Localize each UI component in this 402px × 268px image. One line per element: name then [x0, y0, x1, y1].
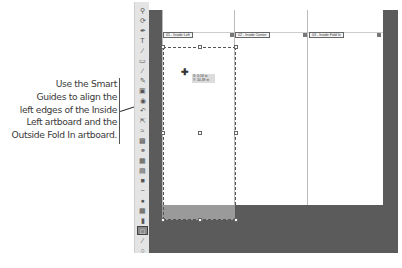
move-cursor-icon: ✚ — [181, 68, 189, 77]
selection-handle-bottom-right[interactable] — [234, 218, 238, 222]
pasteboard-left-edge — [149, 10, 162, 205]
selection-handle-center[interactable] — [198, 131, 202, 135]
tooltip-y: Y: 10.39 in — [193, 78, 214, 82]
pencil-tool-icon[interactable]: ✎ — [137, 76, 148, 85]
artboard-top-edge — [162, 32, 383, 33]
artboard-divider — [307, 10, 308, 205]
artboard-label-inside-center[interactable]: 02 - Inside Center — [235, 32, 270, 38]
perspective-grid-tool-icon[interactable]: ▦ — [137, 156, 148, 165]
tools-panel: ⚲ ⟳ ✒ T ∕ ▭ ∕ ✎ ▣ ◉ ↶ ⇱ ≈ ▩ ⚭ ▦ ▤ ■ − ● … — [134, 2, 149, 253]
warp-tool-icon[interactable]: ≈ — [137, 126, 148, 135]
graph-tool-icon[interactable]: ▮ — [137, 216, 148, 225]
blob-brush-tool-icon[interactable]: ◉ — [137, 96, 148, 105]
selection-handle-bottom-center[interactable] — [198, 218, 202, 222]
selection-handle-top-right[interactable] — [234, 45, 238, 49]
callout-line: Guides to align the — [4, 91, 117, 104]
callout-line: Left artboard and the — [4, 116, 117, 129]
selection-handle-top-center[interactable] — [198, 45, 202, 49]
zoom-tool-icon[interactable]: ⚲ — [137, 6, 148, 15]
line-tool-icon[interactable]: ∕ — [137, 46, 148, 55]
blend-tool-icon[interactable]: ● — [137, 196, 148, 205]
artboard-options-icon[interactable] — [377, 33, 381, 37]
rotate-tool-icon[interactable]: ↶ — [137, 106, 148, 115]
slice-tool-icon[interactable]: ∕ — [137, 236, 148, 245]
mesh-tool-icon[interactable]: ▤ — [137, 166, 148, 175]
pen-tool-icon[interactable]: ✒ — [137, 26, 148, 35]
eraser-tool-icon[interactable]: ▣ — [137, 86, 148, 95]
type-tool-icon[interactable]: T — [137, 36, 148, 45]
selection-handle-bottom-left[interactable] — [161, 218, 165, 222]
selection-handle-middle-right[interactable] — [234, 131, 238, 135]
callout-line: left edges of the Inside — [4, 104, 117, 117]
artboard-options-icon[interactable] — [303, 33, 307, 37]
symbol-sprayer-tool-icon[interactable]: ▦ — [137, 206, 148, 215]
selection-handle-top-left[interactable] — [161, 45, 165, 49]
rectangle-tool-icon[interactable]: ▭ — [137, 56, 148, 65]
hand-tool-icon[interactable]: ○ — [137, 246, 148, 255]
rotate-view-tool-icon[interactable]: ⟳ — [137, 16, 148, 25]
smart-guide-tooltip: X: 0.13 in Y: 10.39 in — [192, 74, 215, 83]
artboard-tool-icon[interactable]: □ — [137, 226, 148, 235]
callout-line: Use the Smart — [4, 78, 117, 91]
selection-handle-middle-left[interactable] — [161, 131, 165, 135]
shape-builder-tool-icon[interactable]: ⚭ — [137, 146, 148, 155]
paintbrush-tool-icon[interactable]: ∕ — [137, 66, 148, 75]
pasteboard-right-edge — [383, 10, 398, 253]
callout-text: Use the Smart Guides to align the left e… — [4, 78, 117, 142]
callout-line: Outside Fold In artboard. — [4, 129, 117, 142]
artboard-label-inside-left[interactable]: 01 - Inside Left — [163, 32, 193, 38]
gradient-tool-icon[interactable]: ■ — [137, 176, 148, 185]
artboard-label-inside-fold-in[interactable]: 03 - Inside Fold In — [309, 32, 344, 38]
scale-tool-icon[interactable]: ⇱ — [137, 116, 148, 125]
eyedropper-tool-icon[interactable]: − — [137, 186, 148, 195]
free-transform-tool-icon[interactable]: ▩ — [137, 136, 148, 145]
artboard-options-icon[interactable] — [230, 33, 234, 37]
